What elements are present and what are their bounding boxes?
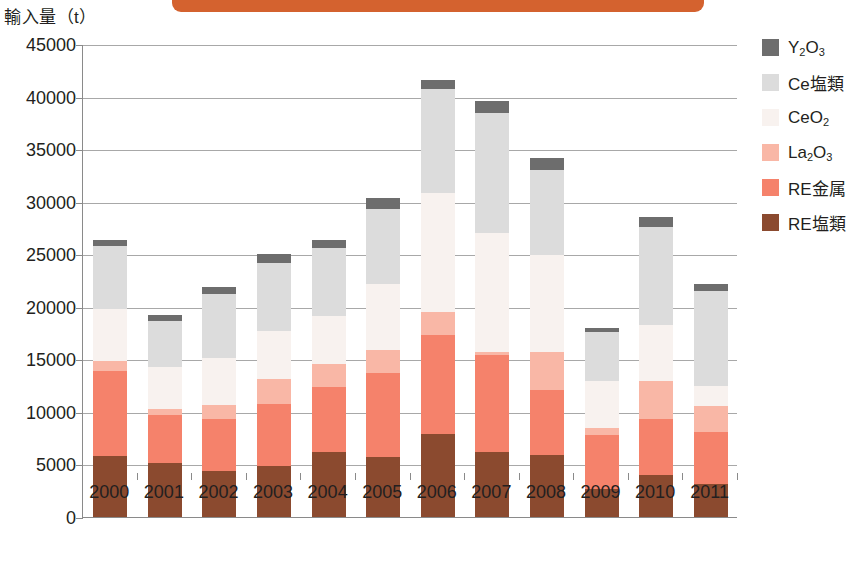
bar-segment-2001-Ce塩類[interactable] — [148, 321, 182, 367]
legend-swatch-RE金属 — [762, 179, 779, 196]
bar-segment-2010-CeO2[interactable] — [639, 325, 673, 382]
y-tick-mark — [76, 98, 83, 99]
bar-segment-2002-Y2O3[interactable] — [202, 287, 236, 294]
bar-segment-2008-RE金属[interactable] — [530, 390, 564, 455]
y-tick-label: 30000 — [2, 192, 76, 213]
bar-segment-2002-RE金属[interactable] — [202, 419, 236, 471]
bar-segment-2006-Ce塩類[interactable] — [421, 89, 455, 193]
bar-segment-2001-RE金属[interactable] — [148, 415, 182, 463]
bar-segment-2007-Ce塩類[interactable] — [475, 113, 509, 233]
bar-segment-2000-La2O3[interactable] — [93, 361, 127, 370]
bar-segment-2005-CeO2[interactable] — [366, 284, 400, 350]
bar-segment-2005-RE金属[interactable] — [366, 373, 400, 457]
bar-group-2003[interactable] — [257, 254, 291, 517]
y-tick-label: 15000 — [2, 350, 76, 371]
legend-item-Y2O3[interactable]: Y2O3 — [762, 30, 866, 65]
bar-segment-2006-La2O3[interactable] — [421, 312, 455, 335]
bar-segment-2011-CeO2[interactable] — [694, 386, 728, 406]
bar-segment-2011-Y2O3[interactable] — [694, 284, 728, 291]
bar-segment-2003-La2O3[interactable] — [257, 379, 291, 403]
bar-segment-2007-Y2O3[interactable] — [475, 101, 509, 114]
bar-segment-2005-Ce塩類[interactable] — [366, 209, 400, 284]
legend-item-La2O3[interactable]: La2O3 — [762, 135, 866, 170]
bar-segment-2010-Ce塩類[interactable] — [639, 227, 673, 325]
bar-segment-2004-CeO2[interactable] — [312, 316, 346, 363]
bar-segment-2003-Y2O3[interactable] — [257, 254, 291, 262]
x-tick-label-2006: 2006 — [407, 482, 467, 503]
bar-group-2005[interactable] — [366, 198, 400, 517]
bar-segment-2005-La2O3[interactable] — [366, 350, 400, 373]
bar-segment-2009-La2O3[interactable] — [585, 428, 619, 435]
bar-segment-2006-Y2O3[interactable] — [421, 80, 455, 89]
x-tick-label-2009: 2009 — [571, 482, 631, 503]
bar-segment-2009-RE金属[interactable] — [585, 435, 619, 489]
x-tick-mark — [410, 473, 411, 480]
bar-segment-2001-CeO2[interactable] — [148, 367, 182, 409]
bar-segment-2000-RE金属[interactable] — [93, 371, 127, 456]
y-tick-mark — [76, 413, 83, 414]
bar-segment-2000-CeO2[interactable] — [93, 309, 127, 362]
x-tick-mark — [628, 473, 629, 480]
bar-segment-2008-La2O3[interactable] — [530, 352, 564, 390]
legend-label-Y2O3: Y2O3 — [788, 38, 825, 58]
bar-segment-2009-CeO2[interactable] — [585, 381, 619, 427]
bar-group-2004[interactable] — [312, 240, 346, 517]
bar-group-2010[interactable] — [639, 217, 673, 517]
bar-group-2007[interactable] — [475, 101, 509, 517]
x-tick-mark — [519, 473, 520, 480]
y-axis-unit-label: 輸入量（t） — [4, 3, 97, 28]
legend-label-RE塩類: RE塩類 — [788, 210, 846, 235]
bar-segment-2008-CeO2[interactable] — [530, 255, 564, 352]
bar-segment-2009-Ce塩類[interactable] — [585, 332, 619, 381]
y-tick-mark — [76, 203, 83, 204]
bar-segment-2004-RE金属[interactable] — [312, 387, 346, 452]
bar-group-2000[interactable] — [93, 240, 127, 517]
y-tick-mark — [76, 45, 83, 46]
legend-item-RE塩類[interactable]: RE塩類 — [762, 205, 866, 240]
bar-segment-2007-RE金属[interactable] — [475, 355, 509, 452]
bar-segment-2006-RE金属[interactable] — [421, 335, 455, 434]
legend-item-CeO2[interactable]: CeO2 — [762, 100, 866, 135]
y-tick-label: 35000 — [2, 140, 76, 161]
x-tick-mark — [464, 473, 465, 480]
bar-segment-2011-RE金属[interactable] — [694, 432, 728, 485]
bar-segment-2011-Ce塩類[interactable] — [694, 291, 728, 386]
bar-group-2008[interactable] — [530, 158, 564, 517]
bar-segment-2006-RE塩類[interactable] — [421, 434, 455, 517]
bar-segment-2007-CeO2[interactable] — [475, 233, 509, 352]
bar-segment-2008-Ce塩類[interactable] — [530, 170, 564, 255]
legend-swatch-Y2O3 — [762, 39, 779, 56]
legend-item-RE金属[interactable]: RE金属 — [762, 170, 866, 205]
legend-item-Ce塩類[interactable]: Ce塩類 — [762, 65, 866, 100]
x-tick-label-2008: 2008 — [516, 482, 576, 503]
bar-segment-2010-RE金属[interactable] — [639, 419, 673, 475]
y-tick-mark — [76, 150, 83, 151]
bar-segment-2004-Y2O3[interactable] — [312, 240, 346, 248]
bar-group-2006[interactable] — [421, 80, 455, 517]
bar-segment-2004-La2O3[interactable] — [312, 364, 346, 387]
bar-segment-2002-Ce塩類[interactable] — [202, 294, 236, 358]
x-tick-mark — [191, 473, 192, 480]
bar-segment-2010-Y2O3[interactable] — [639, 217, 673, 226]
bar-segment-2011-La2O3[interactable] — [694, 406, 728, 432]
legend-swatch-Ce塩類 — [762, 74, 779, 91]
y-tick-label: 20000 — [2, 297, 76, 318]
bar-segment-2008-Y2O3[interactable] — [530, 158, 564, 171]
bar-segment-2002-CeO2[interactable] — [202, 358, 236, 404]
y-tick-mark — [76, 465, 83, 466]
bar-segment-2006-CeO2[interactable] — [421, 193, 455, 312]
bar-segment-2010-La2O3[interactable] — [639, 381, 673, 419]
x-tick-mark — [355, 473, 356, 480]
bar-segment-2003-CeO2[interactable] — [257, 331, 291, 379]
bar-segment-2002-La2O3[interactable] — [202, 405, 236, 420]
bar-segment-2003-RE金属[interactable] — [257, 404, 291, 466]
x-tick-mark — [300, 473, 301, 480]
bar-segment-2005-Y2O3[interactable] — [366, 198, 400, 210]
bar-segment-2000-Ce塩類[interactable] — [93, 246, 127, 309]
bar-segment-2004-Ce塩類[interactable] — [312, 248, 346, 316]
y-tick-label: 25000 — [2, 245, 76, 266]
bar-segment-2003-Ce塩類[interactable] — [257, 263, 291, 331]
legend-label-CeO2: CeO2 — [788, 108, 829, 128]
x-tick-label-2001: 2001 — [134, 482, 194, 503]
x-tick-mark — [246, 473, 247, 480]
